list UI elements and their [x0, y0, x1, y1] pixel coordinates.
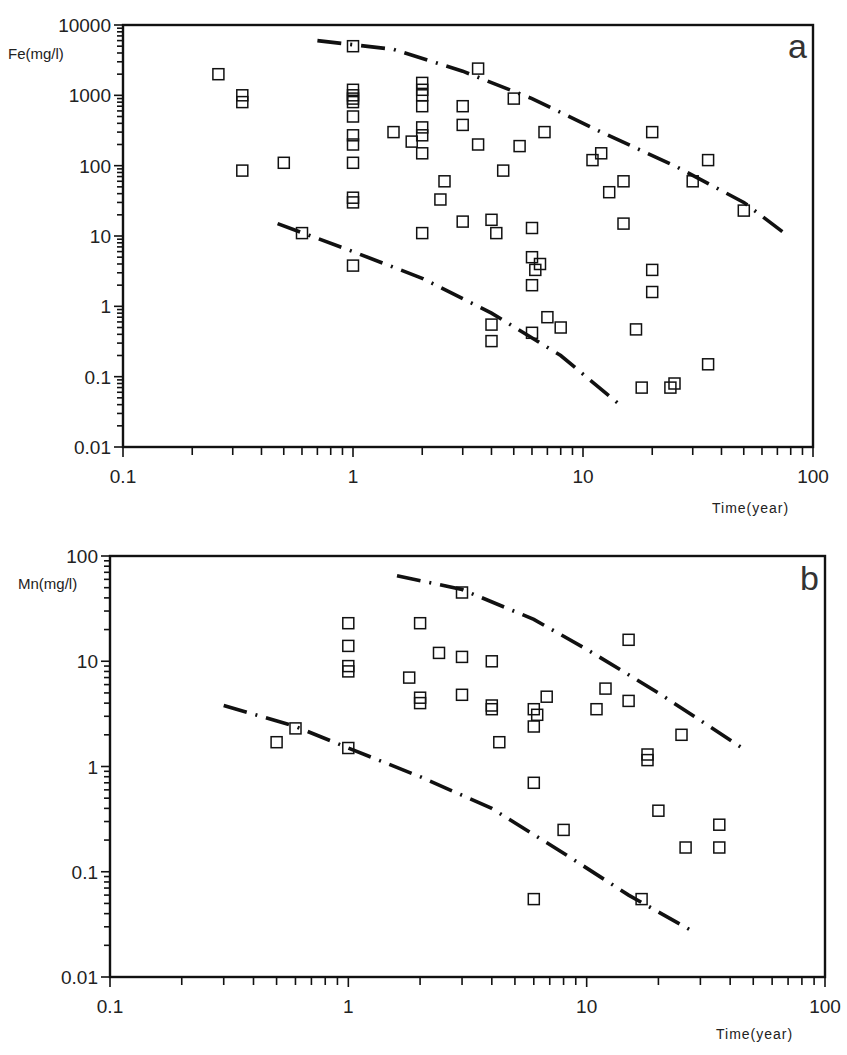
data-point-square — [542, 312, 553, 323]
x-tick-label: 0.1 — [110, 466, 136, 487]
data-point-square — [348, 192, 359, 203]
data-point-square — [417, 122, 428, 133]
data-point-square — [473, 63, 484, 74]
data-point-square — [669, 378, 680, 389]
data-point-square — [435, 194, 446, 205]
x-tick-label: 0.1 — [97, 996, 123, 1017]
data-point-square — [647, 287, 658, 298]
data-point-square — [473, 139, 484, 150]
data-point-square — [486, 214, 497, 225]
data-point-square — [618, 218, 629, 229]
data-point-square — [665, 382, 676, 393]
data-point-square — [618, 176, 629, 187]
x-axis-title-a: Time(year) — [712, 500, 789, 516]
x-tick-label: 10 — [576, 996, 597, 1017]
y-tick-label: 0.1 — [85, 367, 111, 388]
chart-fe: 0.010.11101001000100000.1110100 Fe(mg/l)… — [8, 15, 829, 516]
data-point-square — [457, 651, 468, 662]
data-point-square — [237, 165, 248, 176]
data-point-square — [498, 165, 509, 176]
data-point-square — [457, 101, 468, 112]
data-point-square — [417, 130, 428, 141]
envelope-curves-b — [224, 576, 743, 932]
data-point-square — [494, 737, 505, 748]
data-point-square — [237, 97, 248, 108]
data-point-square — [486, 700, 497, 711]
data-point-square — [417, 77, 428, 88]
data-point-square — [528, 894, 539, 905]
data-point-square — [508, 93, 519, 104]
data-point-square — [348, 41, 359, 52]
data-point-square — [348, 260, 359, 271]
data-point-square — [714, 819, 725, 830]
plot-frame-b — [110, 556, 825, 977]
data-point-square — [528, 721, 539, 732]
data-point-square — [417, 101, 428, 112]
lower-envelope-curve — [224, 706, 694, 932]
x-tick-label: 100 — [797, 466, 829, 487]
data-point-square — [714, 842, 725, 853]
panel-label-b: b — [800, 559, 819, 597]
x-axis-title-b: Time(year) — [716, 1026, 793, 1042]
data-point-square — [653, 805, 664, 816]
data-point-square — [348, 157, 359, 168]
data-point-square — [558, 824, 569, 835]
y-tick-label: 0.1 — [72, 862, 98, 883]
data-point-square — [541, 691, 552, 702]
data-point-square — [457, 689, 468, 700]
upper-envelope-curve — [397, 576, 742, 748]
y-tick-label: 1 — [100, 296, 111, 317]
data-point-square — [486, 704, 497, 715]
data-point-square — [591, 704, 602, 715]
data-point-square — [600, 683, 611, 694]
data-point-square — [623, 695, 634, 706]
data-point-square — [404, 672, 415, 683]
data-point-square — [703, 155, 714, 166]
y-tick-label: 1000 — [69, 85, 111, 106]
data-point-square — [680, 842, 691, 853]
y-axis-title-a: Fe(mg/l) — [8, 45, 64, 62]
data-point-square — [417, 228, 428, 239]
y-tick-label: 100 — [66, 546, 98, 567]
data-point-square — [417, 148, 428, 159]
data-point-square — [439, 176, 450, 187]
data-point-square — [738, 205, 749, 216]
data-point-square — [539, 127, 550, 138]
data-point-square — [388, 127, 399, 138]
data-point-square — [348, 111, 359, 122]
data-point-square — [527, 252, 538, 263]
data-point-square — [514, 141, 525, 152]
axis-ticks-b: 0.010.11101000.1110100 — [61, 546, 841, 1017]
data-point-square — [647, 127, 658, 138]
data-point-square — [703, 359, 714, 370]
x-tick-label: 100 — [809, 996, 841, 1017]
data-point-square — [415, 618, 426, 629]
data-point-square — [528, 777, 539, 788]
plot-frame-a — [123, 25, 813, 447]
y-tick-label: 100 — [79, 156, 111, 177]
data-point-square — [434, 647, 445, 658]
data-point-square — [555, 322, 566, 333]
data-point-square — [491, 228, 502, 239]
y-tick-label: 1 — [87, 757, 98, 778]
x-tick-label: 1 — [343, 996, 354, 1017]
data-point-square — [486, 656, 497, 667]
data-point-square — [348, 197, 359, 208]
chart-mn: 0.010.11101000.1110100 Mn(mg/l) b Time(y… — [18, 546, 841, 1042]
axis-ticks-a: 0.010.11101001000100000.1110100 — [58, 15, 829, 487]
data-point-square — [278, 157, 289, 168]
data-point-square — [213, 69, 224, 80]
data-point-square — [290, 723, 301, 734]
x-tick-label: 10 — [572, 466, 593, 487]
data-point-square — [457, 119, 468, 130]
figure: 0.010.11101001000100000.1110100 Fe(mg/l)… — [0, 0, 847, 1055]
y-tick-label: 10 — [77, 651, 98, 672]
data-point-square — [604, 187, 615, 198]
y-tick-label: 0.01 — [61, 967, 98, 988]
data-point-square — [486, 336, 497, 347]
data-point-square — [636, 382, 647, 393]
data-point-square — [527, 223, 538, 234]
data-point-square — [348, 97, 359, 108]
data-point-square — [237, 90, 248, 101]
x-tick-label: 1 — [348, 466, 359, 487]
